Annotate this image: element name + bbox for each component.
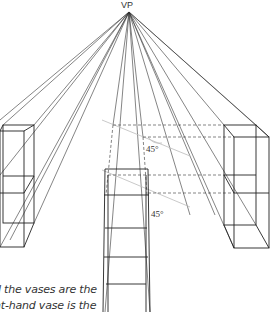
- caption-line-1: d the vases are the: [0, 283, 97, 296]
- perspective-diagram: [0, 0, 274, 312]
- angle-label-upper: 45°: [146, 144, 159, 154]
- caption-line-2: nt-hand vase is the: [0, 299, 96, 312]
- dashed-lines: [106, 125, 234, 195]
- center-vase: [103, 169, 150, 312]
- vanishing-point-label: VP: [121, 0, 133, 10]
- angle-label-lower: 45°: [151, 209, 164, 219]
- left-vase: [0, 125, 34, 247]
- right-vase: [224, 125, 269, 248]
- perspective-lines: [0, 12, 269, 312]
